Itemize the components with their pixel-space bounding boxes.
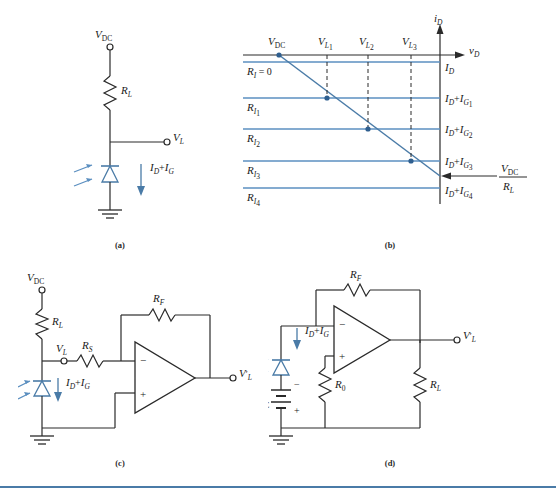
caption-d: (d) xyxy=(370,458,410,468)
op-point-vl1 xyxy=(324,95,329,100)
ground-symbol-c xyxy=(30,436,54,444)
rf-label-d: RF xyxy=(349,268,362,283)
resistor-rs-c xyxy=(77,355,103,367)
op-point-vl2 xyxy=(365,126,370,131)
x-axis-arrow-b xyxy=(455,52,465,59)
op-point-vdc xyxy=(276,52,281,57)
opamp-plus-input-d: + xyxy=(339,350,345,362)
opamp-plus-input-c: + xyxy=(140,388,146,400)
output-label-c: V′L xyxy=(239,367,252,382)
output-label-d: V′L xyxy=(463,329,476,344)
photodiode-body-c xyxy=(34,381,50,396)
output-terminal-c xyxy=(230,375,236,381)
current-arrow-d xyxy=(293,328,301,350)
tick-label-vdc: VDC xyxy=(268,35,285,50)
vl-terminal-a xyxy=(164,139,170,145)
battery-minus-d: − xyxy=(294,379,300,390)
opamp-c xyxy=(135,342,195,413)
panel-c: VDC RL VL RS xyxy=(18,268,268,462)
footer-rule xyxy=(0,486,556,488)
battery-plus-d: + xyxy=(294,405,300,416)
panel-d: RF − + ID+IG xyxy=(268,268,538,462)
panel-d-schematic: RF − + ID+IG xyxy=(268,268,538,458)
rl-label-a: RL xyxy=(120,84,132,99)
curve-label-ri3: RI3 xyxy=(246,164,260,181)
rf-label-c: RF xyxy=(152,292,165,307)
resistor-r0-d xyxy=(319,368,331,402)
panel-a: VDC RL VL xyxy=(40,14,240,233)
vdc-label-a: VDC xyxy=(95,28,112,43)
ground-symbol-d xyxy=(269,436,293,444)
current-label-ig1: ID+IG1 xyxy=(444,92,473,109)
vl-label-a: VL xyxy=(173,131,184,146)
figure-page: VDC RL VL xyxy=(0,0,556,500)
panel-a-schematic: VDC RL VL xyxy=(40,14,240,229)
current-label-ig3: ID+IG3 xyxy=(444,155,473,172)
output-terminal-d xyxy=(454,337,460,343)
vl-terminal-c xyxy=(61,358,67,364)
opamp-d xyxy=(334,306,390,373)
vdc-label-c: VDC xyxy=(27,271,44,286)
r0-label-d: R0 xyxy=(334,378,346,393)
tick-label-vl3: VL3 xyxy=(402,35,417,52)
light-rays-c xyxy=(18,380,30,399)
panel-c-schematic: VDC RL VL RS xyxy=(18,268,268,458)
op-point-vl3 xyxy=(408,158,413,163)
opamp-minus-input-d: − xyxy=(339,318,345,330)
vdc-over-rl-denominator: RL xyxy=(502,180,514,195)
caption-b: (b) xyxy=(370,240,410,250)
vdc-terminal-c xyxy=(39,287,45,293)
tick-label-vl1: VL1 xyxy=(318,35,333,52)
vdc-over-rl-numerator: VDC xyxy=(501,162,518,177)
vdc-terminal-a xyxy=(107,44,113,50)
current-arrow-c xyxy=(54,378,62,402)
rs-label-c: RS xyxy=(81,339,93,354)
y-axis-label-b: iD xyxy=(434,14,443,27)
current-label-c: ID+IG xyxy=(65,376,90,391)
ground-symbol-a xyxy=(98,210,122,218)
x-axis-label-b: vD xyxy=(469,44,480,59)
vl-label-c: VL xyxy=(56,342,67,357)
panel-b: vD iD xyxy=(235,14,545,233)
curve-label-ri1: RI1 xyxy=(246,101,260,118)
current-arrow-a xyxy=(137,164,145,196)
rl-label-c: RL xyxy=(51,315,63,330)
resistor-rl-a xyxy=(104,76,116,110)
current-label-ig2: ID+IG2 xyxy=(444,123,473,140)
panel-b-chart: vD iD xyxy=(235,14,545,229)
resistor-rf-c xyxy=(149,309,175,321)
photodiode-body-a xyxy=(102,166,118,182)
current-label-ig4: ID+IG4 xyxy=(444,184,473,201)
resistor-rl-c xyxy=(36,309,48,339)
photodiode-body-d xyxy=(273,360,289,375)
vdc-label-d: VDC xyxy=(268,395,269,410)
light-rays-a xyxy=(74,164,92,186)
resistor-rf-d xyxy=(344,284,370,296)
caption-c: (c) xyxy=(100,458,140,468)
curve-label-ri0: RI = 0 xyxy=(246,65,272,80)
resistor-rl-d xyxy=(414,368,426,402)
characteristic-curves-b xyxy=(243,62,440,188)
rl-label-d: RL xyxy=(429,378,441,393)
tick-label-vl2: VL2 xyxy=(359,35,374,52)
current-label-a: ID+IG xyxy=(149,161,174,176)
battery-vdc-d xyxy=(271,390,291,408)
curve-label-ri4: RI4 xyxy=(246,191,260,208)
caption-a: (a) xyxy=(100,240,140,250)
opamp-minus-input-c: − xyxy=(140,354,146,366)
curve-label-ri2: RI2 xyxy=(246,132,260,149)
current-label-id: ID xyxy=(444,61,455,76)
load-line-b xyxy=(279,55,440,176)
